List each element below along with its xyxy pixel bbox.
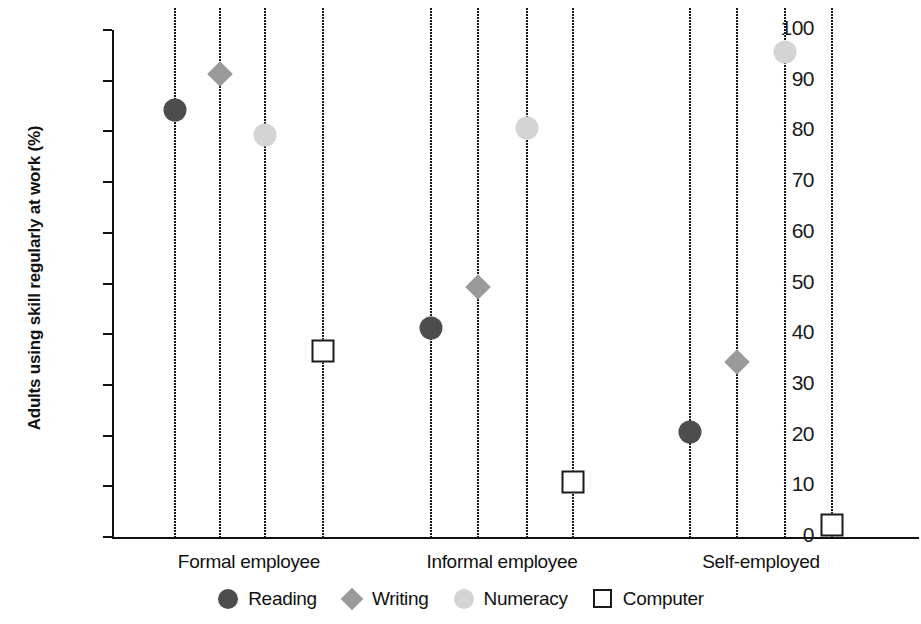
chart-legend: ReadingWritingNumeracyComputer (0, 588, 921, 610)
data-point-computer[interactable] (821, 513, 844, 536)
y-tick (103, 181, 112, 183)
legend-label: Reading (248, 588, 317, 610)
y-tick (103, 29, 112, 31)
drop-line (430, 8, 432, 537)
data-point-reading[interactable] (679, 420, 702, 443)
plot-area: 0102030405060708090100 Formal employeeIn… (112, 8, 919, 537)
gray-diamond-icon (341, 588, 363, 610)
y-tick (103, 435, 112, 437)
drop-line (264, 8, 266, 537)
data-point-writing[interactable] (207, 61, 232, 86)
y-tick (103, 232, 112, 234)
y-axis-line (112, 30, 114, 537)
y-tick (103, 80, 112, 82)
category-label: Informal employee (426, 551, 577, 573)
drop-line (784, 8, 786, 537)
drop-line (174, 8, 176, 537)
drop-line (736, 8, 738, 537)
data-point-writing[interactable] (724, 349, 749, 374)
legend-item-numeracy[interactable]: Numeracy (453, 588, 568, 610)
legend-label: Writing (372, 588, 429, 610)
y-tick (103, 283, 112, 285)
data-point-numeracy[interactable] (516, 116, 539, 139)
legend-item-computer[interactable]: Computer (592, 588, 704, 610)
data-point-computer[interactable] (312, 340, 335, 363)
data-point-computer[interactable] (562, 471, 585, 494)
legend-item-writing[interactable]: Writing (341, 588, 429, 610)
legend-label: Computer (623, 588, 704, 610)
legend-item-reading[interactable]: Reading (217, 588, 317, 610)
data-point-reading[interactable] (420, 316, 443, 339)
dark-circle-icon (217, 588, 239, 610)
drop-line (831, 8, 833, 537)
y-tick (103, 333, 112, 335)
data-point-numeracy[interactable] (774, 40, 797, 63)
legend-label: Numeracy (484, 588, 568, 610)
drop-line (572, 8, 574, 537)
drop-line (322, 8, 324, 537)
y-tick (103, 384, 112, 386)
y-tick (103, 536, 112, 538)
drop-line (689, 8, 691, 537)
drop-line (526, 8, 528, 537)
skills-by-employment-chart: Adults using skill regularly at work (%)… (0, 0, 921, 624)
category-label: Self-employed (702, 551, 820, 573)
category-label: Formal employee (178, 551, 320, 573)
drop-line (477, 8, 479, 537)
y-tick (103, 130, 112, 132)
data-point-writing[interactable] (465, 274, 490, 299)
data-point-numeracy[interactable] (254, 124, 277, 147)
light-circle-icon (453, 588, 475, 610)
hollow-square-icon (592, 588, 614, 610)
drop-line (219, 8, 221, 537)
y-axis-title: Adults using skill regularly at work (%) (25, 68, 45, 488)
data-point-reading[interactable] (164, 99, 187, 122)
y-tick (103, 485, 112, 487)
